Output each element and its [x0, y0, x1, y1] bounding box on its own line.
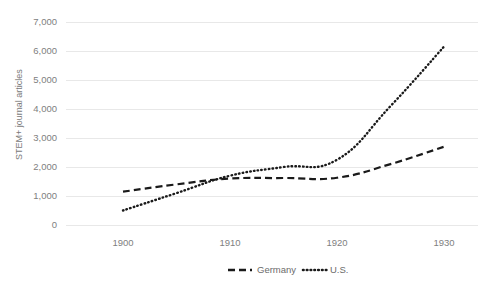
xtick-label-1900: 1900: [112, 237, 133, 248]
ytick-label-7000: 7,000: [33, 16, 57, 27]
xtick-label-1910: 1910: [219, 237, 240, 248]
chart-background: [0, 0, 496, 284]
line-chart: 7,000 6,000 5,000 4,000 3,000 2,000 1,00…: [0, 0, 496, 284]
ytick-label-4000: 4,000: [33, 103, 57, 114]
xtick-label-1930: 1930: [433, 237, 454, 248]
ytick-label-6000: 6,000: [33, 45, 57, 56]
chart-figure: 7,000 6,000 5,000 4,000 3,000 2,000 1,00…: [0, 0, 496, 284]
ytick-label-5000: 5,000: [33, 74, 57, 85]
xtick-label-1920: 1920: [326, 237, 347, 248]
ytick-label-2000: 2,000: [33, 161, 57, 172]
legend-label-germany: Germany: [257, 264, 296, 275]
legend-label-us: U.S.: [330, 264, 348, 275]
ytick-label-0: 0: [52, 219, 57, 230]
y-axis-title: STEM+ journal articles: [14, 69, 24, 160]
ytick-label-3000: 3,000: [33, 132, 57, 143]
ytick-label-1000: 1,000: [33, 190, 57, 201]
